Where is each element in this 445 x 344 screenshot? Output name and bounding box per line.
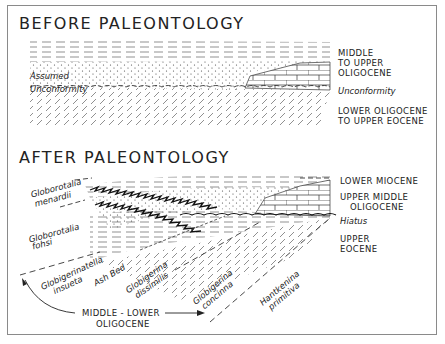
label-unconformity-left: Unconformity xyxy=(30,84,88,94)
label-oligocene: OLIGOCENE xyxy=(338,68,392,78)
label-middle-lower-oligocene: OLIGOCENE xyxy=(96,319,150,329)
label-oligocene-after: OLIGOCENE xyxy=(350,202,404,212)
label-lower-miocene: LOWER MIOCENE xyxy=(340,176,418,186)
label-unconformity-right: Unconformity xyxy=(338,86,396,96)
label-hiatus: Hiatus xyxy=(340,216,367,226)
label-upper-eocene: TO UPPER EOCENE xyxy=(338,116,424,126)
label-assumed: Assumed xyxy=(30,71,69,81)
label-lower-oligocene: LOWER OLIGOCENE xyxy=(338,106,428,116)
label-to-upper: TO UPPER xyxy=(338,58,384,68)
after-title: AFTER PALEONTOLOGY xyxy=(19,148,230,167)
label-upper: UPPER xyxy=(340,234,370,244)
label-middle-lower: MIDDLE - LOWER xyxy=(82,308,160,318)
label-upper-middle: UPPER MIDDLE xyxy=(340,192,408,202)
label-middle: MIDDLE xyxy=(338,48,373,58)
before-title: BEFORE PALEONTOLOGY xyxy=(19,14,245,33)
label-eocene: EOCENE xyxy=(340,244,378,254)
before-section xyxy=(30,40,330,126)
